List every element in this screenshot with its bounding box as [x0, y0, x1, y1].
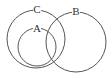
set-b-label: B [72, 5, 79, 17]
set-a-label: A [33, 22, 41, 34]
venn-diagram: C A B [0, 0, 111, 76]
set-a-circle [18, 28, 56, 66]
set-c-circle [7, 10, 65, 68]
set-c-label: C [33, 3, 40, 15]
